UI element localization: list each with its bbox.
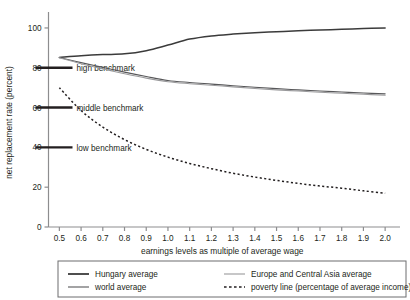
x-tick-label: 0.7 bbox=[97, 234, 109, 243]
x-tick-label: 1.6 bbox=[293, 234, 305, 243]
x-tick-label: 0.6 bbox=[75, 234, 87, 243]
benchmark-markers: high benchmarkmiddle benchmarklow benchm… bbox=[36, 64, 145, 153]
series-line bbox=[59, 57, 385, 93]
series-line bbox=[59, 28, 385, 57]
axes: 0204060801000.50.60.70.80.91.01.11.21.31… bbox=[28, 12, 400, 243]
x-tick-label: 1.4 bbox=[249, 234, 261, 243]
x-tick-label: 0.8 bbox=[119, 234, 131, 243]
x-tick-label: 1.5 bbox=[271, 234, 283, 243]
x-tick-label: 1.0 bbox=[162, 234, 174, 243]
legend-label: poverty line (percentage of average inco… bbox=[251, 283, 410, 292]
x-tick-label: 1.7 bbox=[314, 234, 326, 243]
x-tick-label: 2.0 bbox=[379, 234, 391, 243]
y-tick-label: 100 bbox=[28, 24, 42, 33]
x-tick-label: 0.9 bbox=[141, 234, 153, 243]
y-tick-label: 20 bbox=[32, 183, 42, 192]
legend-label: world average bbox=[94, 283, 147, 292]
y-axis-title: net replacement rate (percent) bbox=[4, 66, 14, 179]
x-tick-label: 1.9 bbox=[358, 234, 370, 243]
x-tick-label: 0.5 bbox=[54, 234, 66, 243]
x-tick-label: 1.3 bbox=[227, 234, 239, 243]
legend-label: Europe and Central Asia average bbox=[251, 270, 372, 279]
x-tick-label: 1.2 bbox=[206, 234, 218, 243]
benchmark-label: low benchmark bbox=[77, 144, 133, 153]
x-tick-label: 1.8 bbox=[336, 234, 348, 243]
y-tick-label: 0 bbox=[37, 223, 42, 232]
x-axis-title: earnings levels as multiple of average w… bbox=[141, 246, 304, 256]
legend-label: Hungary average bbox=[95, 270, 158, 279]
x-tick-label: 1.1 bbox=[184, 234, 196, 243]
line-chart: 0204060801000.50.60.70.80.91.01.11.21.31… bbox=[0, 0, 410, 300]
benchmark-label: middle benchmark bbox=[77, 104, 145, 113]
chart-legend: Hungary averageEurope and Central Asia a… bbox=[58, 261, 410, 297]
chart-figure: 0204060801000.50.60.70.80.91.01.11.21.31… bbox=[0, 0, 410, 300]
